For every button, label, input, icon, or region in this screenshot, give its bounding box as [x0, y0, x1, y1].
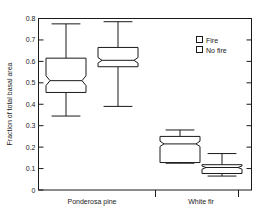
category-label: Ponderosa pine [67, 198, 116, 206]
box-plot-item [46, 24, 86, 116]
y-tick-label: 0 [32, 187, 36, 194]
legend-label-no-fire: No fire [206, 47, 227, 54]
legend-label-fire: Fire [206, 37, 218, 44]
box-plot-item [202, 154, 242, 177]
box-body [46, 58, 86, 92]
box-plots [46, 22, 242, 176]
y-tick-label: 0.5 [26, 79, 36, 86]
box-body [202, 165, 242, 174]
y-tick-label: 0.4 [26, 101, 36, 108]
box-body [160, 136, 200, 162]
y-tick-label: 0.7 [26, 36, 36, 43]
y-tick-label: 0.6 [26, 58, 36, 65]
y-tick-label: 0.8 [26, 15, 36, 22]
legend-swatch-fire [197, 37, 203, 43]
y-axis-ticks-right [247, 19, 252, 169]
box-plot-item [160, 130, 200, 163]
y-tick-label: 0.3 [26, 122, 36, 129]
legend-swatch-no-fire [197, 47, 203, 53]
y-axis-label: Fraction of total basal area [6, 62, 13, 145]
y-tick-label: 0.1 [26, 165, 36, 172]
box-plot-item [98, 22, 138, 107]
y-tick-label: 0.2 [26, 144, 36, 151]
x-axis-categories: Ponderosa pineWhite fir [67, 190, 238, 206]
box-body [98, 47, 138, 66]
boxplot-figure: 00.10.20.30.40.50.60.70.8 Fraction of to… [0, 0, 263, 217]
category-label: White fir [188, 198, 214, 205]
y-axis-ticks: 00.10.20.30.40.50.60.70.8 [26, 15, 44, 194]
legend: Fire No fire [197, 37, 227, 54]
chart-canvas: 00.10.20.30.40.50.60.70.8 Fraction of to… [0, 0, 263, 217]
